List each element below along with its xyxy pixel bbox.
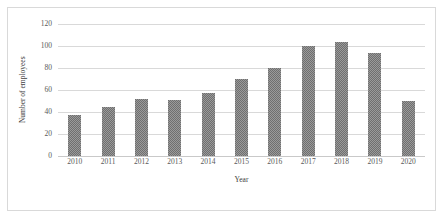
x-tick-label-2016: 2016	[258, 158, 291, 166]
x-tick-label-2019: 2019	[358, 158, 391, 166]
chart-figure: Number of employees 120 100 80 60 40 20 …	[0, 0, 444, 222]
y-tick-label-0: 0	[48, 152, 52, 160]
y-tick-label-80: 80	[45, 64, 53, 72]
bar-slot	[225, 24, 258, 156]
y-axis-title-text: Number of employees	[18, 57, 26, 124]
x-tick-label-2010: 2010	[58, 158, 91, 166]
y-tick-label-120: 120	[41, 20, 52, 28]
bar-slot	[158, 24, 191, 156]
x-tick-label-2017: 2017	[292, 158, 325, 166]
y-tick-label-40: 40	[45, 108, 53, 116]
bar-series	[58, 24, 425, 156]
bar-2013[interactable]	[168, 100, 181, 156]
x-tick-label-2013: 2013	[158, 158, 191, 166]
bar-2015[interactable]	[235, 79, 248, 156]
x-tick-label-2011: 2011	[91, 158, 124, 166]
bar-2014[interactable]	[202, 93, 215, 156]
bar-slot	[292, 24, 325, 156]
x-tick-label-2014: 2014	[191, 158, 224, 166]
bar-slot	[58, 24, 91, 156]
bar-2011[interactable]	[102, 107, 115, 157]
y-tick-label-20: 20	[45, 130, 53, 138]
bar-2019[interactable]	[368, 53, 381, 156]
x-tick-label-2015: 2015	[225, 158, 258, 166]
x-axis-title: Year	[58, 176, 425, 184]
x-tick-label-2020: 2020	[392, 158, 425, 166]
plot-area: 120 100 80 60 40 20 0	[58, 24, 425, 156]
y-axis-title: Number of employees	[16, 24, 28, 156]
bar-slot	[91, 24, 124, 156]
y-tick-label-100: 100	[41, 42, 52, 50]
y-tick-label-60: 60	[45, 86, 53, 94]
x-tick-label-2012: 2012	[125, 158, 158, 166]
bar-2012[interactable]	[135, 99, 148, 156]
x-axis-tick-labels: 2010 2011 2012 2013 2014 2015 2016 2017 …	[58, 158, 425, 166]
bar-slot	[125, 24, 158, 156]
bar-2016[interactable]	[268, 68, 281, 156]
bar-2010[interactable]	[68, 115, 81, 156]
x-tick-label-2018: 2018	[325, 158, 358, 166]
bar-slot	[258, 24, 291, 156]
bar-slot	[392, 24, 425, 156]
bar-slot	[358, 24, 391, 156]
bar-slot	[325, 24, 358, 156]
bar-slot	[191, 24, 224, 156]
bar-2020[interactable]	[402, 101, 415, 156]
bar-2017[interactable]	[302, 46, 315, 156]
bar-2018[interactable]	[335, 42, 348, 156]
